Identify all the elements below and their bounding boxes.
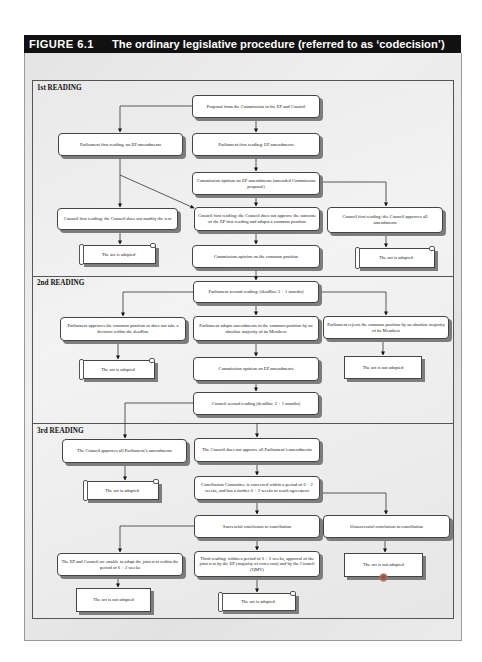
scan-artifact-mark (379, 573, 388, 582)
act-not-adopted-box: The act is not adopted (344, 356, 422, 379)
proposal-box: Proposal from the Commission to the EP a… (192, 95, 320, 118)
act-adopted-box: The act is adopted (81, 245, 156, 264)
section-divider (32, 276, 453, 277)
council-approves-box: Council first reading: the Council appro… (327, 207, 443, 233)
flowchart-frame (32, 80, 454, 619)
parliament-first-reading-no-amendments-box: Parliament first reading: no EP amendmen… (58, 133, 183, 156)
council-not-approve-box: Council first reading: the Council does … (194, 207, 320, 231)
commission-opinion-amendments-box: Commission opinion on EP amendments (ame… (192, 172, 320, 195)
figure-number: FIGURE 6.1 (29, 35, 94, 53)
section-label-1st-reading: 1st READING (37, 84, 82, 92)
act-adopted-box: The act is adopted (357, 248, 435, 268)
figure-title: The ordinary legislative procedure (refe… (112, 35, 445, 53)
section-label-3rd-reading: 3rd READING (37, 427, 84, 435)
parliament-first-reading-amendments-box: Parliament first reading: EP amendments (192, 133, 320, 156)
section-label-2nd-reading: 2nd READING (37, 279, 84, 287)
act-adopted-box: The act is adopted (220, 593, 296, 611)
successful-conciliation-box: Successful conclusion to conciliation (194, 515, 320, 538)
council-second-reading-box: Council second reading (deadline 3 + 1 m… (193, 392, 319, 415)
ep-council-unable-to-adopt-box: The EP and Council are unable to adopt t… (57, 553, 183, 576)
figure-title-bar: FIGURE 6.1 The ordinary legislative proc… (24, 35, 461, 53)
conciliation-committee-box: Conciliation Committee is convened withi… (194, 476, 320, 500)
parliament-rejects-common-position-box: Parliament rejects the common position b… (323, 316, 449, 339)
third-reading-vote-box: Third reading: within a period of 6 + 2 … (194, 551, 320, 577)
act-adopted-box: The act is adopted (81, 360, 155, 379)
act-not-adopted-box: The act is not adopted (76, 588, 151, 612)
commission-opinion-ep-amendments-box: Commission opinion on EP amendments (193, 357, 319, 381)
unsuccessful-conciliation-box: Unsuccessful conclusion to conciliation (323, 515, 450, 538)
council-not-modify-box: Council first reading: the Council does … (57, 208, 178, 230)
act-adopted-box: The act is adopted (85, 481, 159, 500)
council-approves-all-amendments-box: The Council approves all Parliament’s am… (62, 439, 187, 463)
parliament-second-reading-box: Parliament second reading: (deadline 3 +… (193, 281, 319, 303)
commission-opinion-common-position-box: Commission opinion on the common positio… (192, 245, 320, 268)
parliament-approves-common-position-box: Parliament approves the common position … (60, 317, 186, 341)
parliament-adopts-amendments-box: Parliament adopts amendments to the comm… (193, 316, 319, 341)
council-not-approve-all-amendments-box: The Council does not approve all Parliam… (194, 438, 320, 462)
section-divider (32, 423, 453, 424)
